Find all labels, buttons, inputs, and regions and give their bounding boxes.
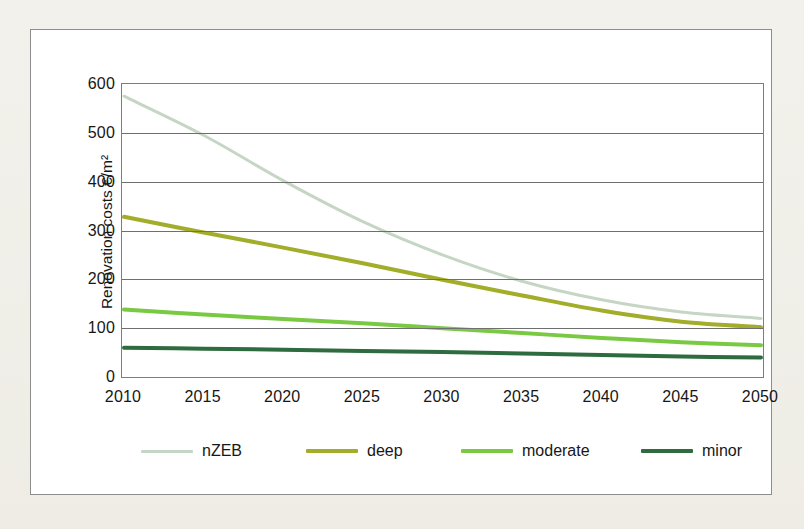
x-tick-label: 2030 — [407, 388, 477, 406]
plot-area — [121, 83, 764, 378]
legend-swatch-minor — [641, 449, 693, 453]
series-line-minor — [124, 348, 761, 358]
legend-swatch-moderate — [461, 449, 513, 453]
legend-item-moderate[interactable]: moderate — [461, 442, 590, 460]
legend-label: moderate — [522, 442, 590, 460]
y-tick-label: 200 — [69, 270, 115, 288]
legend-item-minor[interactable]: minor — [641, 442, 742, 460]
x-tick-label: 2045 — [645, 388, 715, 406]
gridline-200 — [122, 279, 763, 280]
gridline-300 — [122, 231, 763, 232]
y-tick-label: 0 — [69, 368, 115, 386]
y-tick-label: 100 — [69, 319, 115, 337]
legend-item-nZEB[interactable]: nZEB — [141, 442, 242, 460]
legend-item-deep[interactable]: deep — [306, 442, 403, 460]
y-tick-label: 600 — [69, 75, 115, 93]
series-line-nZEB — [124, 96, 761, 318]
chart-legend: nZEBdeepmoderateminor — [121, 442, 764, 468]
line-chart: Renovation costs €/m² 010020030040050060… — [31, 30, 771, 494]
x-axis-tick-labels: 201020152020202520302035204020452050 — [121, 388, 764, 412]
gridline-500 — [122, 133, 763, 134]
gridline-100 — [122, 328, 763, 329]
x-tick-label: 2025 — [327, 388, 397, 406]
legend-swatch-nZEB — [141, 450, 193, 453]
legend-label: minor — [702, 442, 742, 460]
y-tick-label: 400 — [69, 173, 115, 191]
figure-frame: Renovation costs €/m² 010020030040050060… — [30, 29, 772, 495]
x-tick-label: 2010 — [88, 388, 158, 406]
x-tick-label: 2020 — [247, 388, 317, 406]
x-tick-label: 2050 — [725, 388, 795, 406]
x-tick-label: 2035 — [486, 388, 556, 406]
gridline-400 — [122, 182, 763, 183]
x-tick-label: 2040 — [566, 388, 636, 406]
x-tick-label: 2015 — [168, 388, 238, 406]
y-tick-label: 500 — [69, 124, 115, 142]
y-axis-tick-labels: Renovation costs €/m² 010020030040050060… — [59, 83, 115, 378]
legend-swatch-deep — [306, 449, 358, 453]
legend-label: nZEB — [202, 442, 242, 460]
legend-label: deep — [367, 442, 403, 460]
y-tick-label: 300 — [69, 222, 115, 240]
